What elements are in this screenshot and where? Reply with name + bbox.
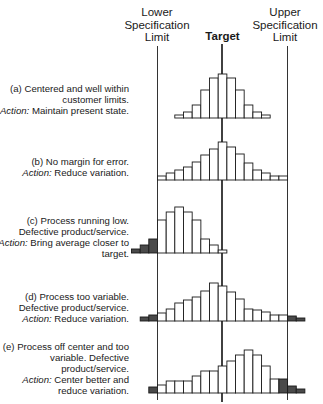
histogram-a-bar (244, 105, 253, 118)
histogram-d-bar (175, 303, 184, 321)
histogram-d-bar (210, 283, 219, 321)
histogram-e-bar (166, 381, 175, 393)
histogram-c-bar (140, 245, 149, 253)
histogram-d-bar (227, 292, 236, 321)
histogram-diagram (0, 0, 323, 404)
histogram-e-bar (210, 371, 219, 393)
histogram-e-bar (218, 366, 227, 393)
histogram-c-bar (210, 245, 219, 253)
histogram-e-bar (201, 371, 210, 393)
histogram-d-bar (201, 291, 210, 321)
histogram-c-bar (166, 212, 175, 253)
histogram-e-bar (192, 376, 201, 393)
histogram-b-bar (227, 147, 236, 180)
histogram-d-bar (158, 313, 167, 321)
histogram-b-bar (158, 176, 167, 180)
histogram-a-bar (262, 115, 271, 118)
histogram-e-bar (244, 350, 253, 393)
histogram-d-bar (236, 299, 245, 321)
histogram-b-bar (192, 162, 201, 180)
histogram-c-bar (132, 249, 141, 253)
histogram-b-bar (210, 149, 219, 180)
histogram-a-bar (201, 90, 210, 118)
histogram-e-bar (158, 385, 167, 393)
histogram-e-bar (288, 386, 297, 393)
histogram-e-bar (296, 389, 305, 393)
histogram-b-bar (270, 176, 279, 180)
histogram-d-bar (288, 316, 297, 321)
histogram-b-bar (201, 155, 210, 180)
histogram-c-bar (201, 239, 210, 253)
histogram-e-bar (149, 387, 158, 393)
histogram-c-bar (158, 220, 167, 253)
histogram-d-bar (149, 315, 158, 321)
histogram-b-bar (175, 170, 184, 180)
histogram-b-bar (166, 173, 175, 180)
histogram-d-bar (296, 318, 305, 321)
histogram-d-bar (253, 310, 262, 321)
histogram-b-bar (279, 176, 288, 180)
histogram-c-bar (149, 239, 158, 253)
histogram-a-bar (210, 78, 219, 118)
histogram-a-bar (218, 74, 227, 118)
histogram-e-bar (279, 379, 288, 393)
histogram-b-bar (218, 142, 227, 180)
histogram-e-bar (227, 361, 236, 393)
histogram-e-bar (184, 381, 193, 393)
histogram-a-bar (192, 105, 201, 118)
histogram-d-bar (279, 315, 288, 321)
histogram-a-bar (184, 112, 193, 118)
histogram-d-bar (166, 309, 175, 321)
histogram-e-bar (253, 355, 262, 393)
histogram-e-bar (175, 381, 184, 393)
histogram-c-bar (192, 220, 201, 253)
histogram-d-bar (262, 312, 271, 321)
histogram-a-bar (253, 112, 262, 118)
histogram-c-bar (175, 207, 184, 253)
histogram-b-bar (262, 173, 271, 180)
histogram-e-bar (270, 379, 279, 393)
histogram-d-bar (184, 300, 193, 321)
histogram-d-bar (192, 297, 201, 321)
histogram-b-bar (236, 154, 245, 180)
histogram-c-bar (184, 212, 193, 253)
histogram-c-bar (218, 250, 227, 253)
histogram-d-bar (140, 317, 149, 321)
histogram-d-bar (244, 309, 253, 321)
histogram-a-bar (236, 90, 245, 118)
histogram-b-bar (253, 170, 262, 180)
histogram-a-bar (175, 115, 184, 118)
histogram-d-bar (218, 286, 227, 321)
histogram-b-bar (184, 167, 193, 180)
histogram-a-bar (227, 78, 236, 118)
histogram-b-bar (244, 163, 253, 180)
histogram-e-bar (262, 366, 271, 393)
histogram-e-bar (236, 355, 245, 393)
histogram-d-bar (270, 315, 279, 321)
